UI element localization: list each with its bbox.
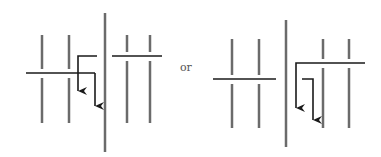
arrow-long-l — [296, 63, 365, 108]
or-label: or — [180, 61, 192, 74]
right-diagram — [213, 20, 365, 147]
left-diagram — [26, 13, 162, 152]
diagram-canvas — [0, 0, 381, 157]
arrow-short-l — [302, 79, 313, 120]
